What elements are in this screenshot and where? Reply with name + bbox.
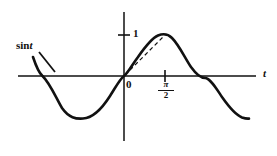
x-tick-label-pi-over-two: π 2	[158, 80, 174, 101]
fraction-denominator-two: 2	[158, 91, 174, 100]
sin-t-leader-line	[39, 52, 55, 72]
curve-label-function-name: sin	[16, 39, 29, 51]
curve-label-sin-t: sint	[16, 40, 33, 51]
curve-label-variable: t	[29, 39, 32, 51]
fraction-numerator-pi: π	[158, 80, 174, 89]
sine-graph-figure: sint 1 0 t π 2	[0, 0, 277, 156]
plot-canvas	[0, 0, 277, 156]
y-tick-label-one: 1	[133, 28, 139, 39]
x-axis-label-t: t	[263, 68, 266, 79]
origin-label-zero: 0	[126, 79, 132, 90]
